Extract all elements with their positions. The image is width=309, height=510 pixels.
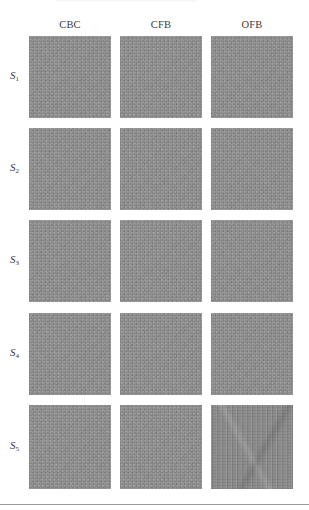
row-label-s3: S3 <box>10 253 28 267</box>
tile-s4-ofb <box>211 313 293 395</box>
column-header-cbc: CBC <box>29 19 111 30</box>
tile-s1-cfb <box>120 36 202 118</box>
column-header-ofb: OFB <box>211 19 293 30</box>
row-label-s1: S1 <box>10 69 28 83</box>
tile-s5-ofb <box>211 405 293 489</box>
bottom-rule-divider <box>0 504 309 505</box>
tile-s2-ofb <box>211 128 293 210</box>
tile-s3-cbc <box>29 220 111 302</box>
tile-s4-cfb <box>120 313 202 395</box>
tile-s2-cfb <box>120 128 202 210</box>
row-label-s5: S5 <box>10 439 28 453</box>
tile-s5-cbc <box>29 405 111 489</box>
tile-s5-cfb <box>120 405 202 489</box>
tile-s4-cbc <box>29 313 111 395</box>
row-label-s2: S2 <box>10 161 28 175</box>
tile-s2-cbc <box>29 128 111 210</box>
tile-s3-cfb <box>120 220 202 302</box>
row-label-s4: S4 <box>10 346 28 360</box>
cropped-title-remnant <box>55 0 195 2</box>
tile-s1-ofb <box>211 36 293 118</box>
tile-s1-cbc <box>29 36 111 118</box>
column-header-cfb: CFB <box>120 19 202 30</box>
tile-s3-ofb <box>211 220 293 302</box>
